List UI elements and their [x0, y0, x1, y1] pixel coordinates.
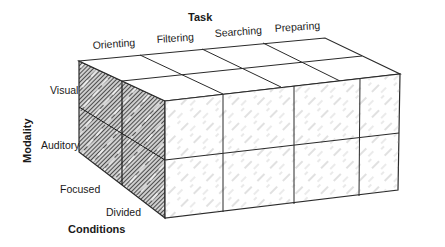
modality-axis-title: Modality [22, 118, 33, 163]
task-axis-title: Task [188, 12, 212, 23]
diagram-canvas: Task Orienting Filtering Searching Prepa… [0, 0, 445, 247]
modality-label-auditory: Auditory [41, 140, 80, 151]
modality-label-visual: Visual [50, 85, 78, 96]
task-label-filtering: Filtering [156, 31, 194, 44]
conditions-axis-title: Conditions [68, 224, 125, 235]
condition-label-divided: Divided [106, 207, 141, 218]
task-label-orienting: Orienting [92, 37, 135, 50]
condition-label-focused: Focused [60, 184, 100, 195]
